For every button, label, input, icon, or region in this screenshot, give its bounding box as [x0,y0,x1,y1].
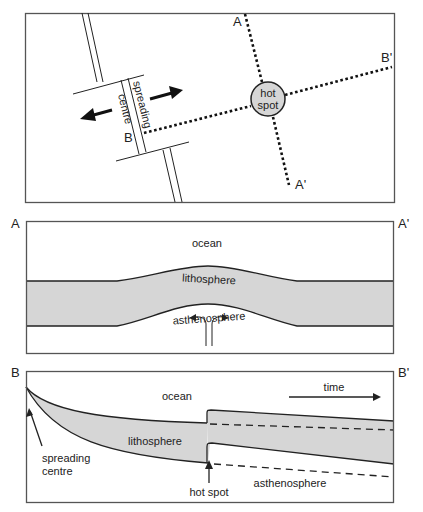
hot-spot-label-line1: hot [260,87,275,99]
asthenosphere-label-bb: asthenosphere [254,477,327,489]
hot-spot-diagram: spreading centre hot spot A A' B B' ocea [0,0,423,512]
map-frame [26,14,395,203]
ridge-segment-south [163,148,182,202]
lithosphere-label-bb: lithosphere [128,435,182,447]
label-a-prime-map: A' [295,177,306,192]
label-b-prime-section: B' [398,365,409,380]
cross-section-aa-panel: ocean lithosphere asthenosphere A A' [11,216,409,354]
ocean-label-bb: ocean [162,390,192,402]
time-arrow-icon [289,393,381,401]
profile-line-a-south [273,117,289,185]
spreading-arrow-left-icon [80,108,112,121]
ocean-label-aa: ocean [192,237,222,249]
asthenosphere-label-aa: asthenosphere [172,309,245,326]
label-a-prime-section: A' [398,216,409,231]
hot-spot-label-bb: hot spot [189,486,228,498]
label-b-section: B [11,365,20,380]
hot-spot-label-line2: spot [258,99,279,111]
label-a-map: A [233,14,242,29]
spreading-arrow-right-icon [150,86,183,99]
profile-line-b-east [285,67,392,95]
spreading-centre-pointer-icon [26,408,42,446]
time-label: time [324,381,345,393]
spreading-centre-label-line2: centre [42,465,73,477]
label-b-prime-map: B' [381,50,392,65]
profile-line-a-north [245,14,262,82]
lithosphere-east-bb [207,410,394,464]
ridge-segment-north [82,13,103,82]
unperturbed-base-dashed-line [214,464,394,477]
profile-line-b-west [144,106,251,133]
cross-section-bb-panel: time ocean lithosphere asthenosphere spr… [11,365,409,503]
label-b-map: B [124,130,133,145]
spreading-centre-label-line1: spreading [42,452,90,464]
map-view-panel: spreading centre hot spot A A' B B' [26,13,395,203]
label-a-section: A [11,216,20,231]
